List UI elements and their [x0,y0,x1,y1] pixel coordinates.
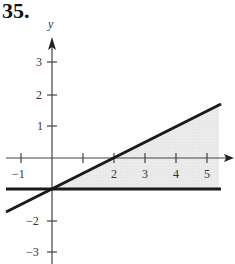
x-tick-label: 3 [142,167,148,181]
y-tick-label: −2 [26,214,39,228]
x-tick-label: −1 [12,167,25,181]
y-tick-label: 3 [36,55,42,69]
y-tick-label: 1 [37,119,43,133]
y-axis-label: y [47,17,54,31]
x-tick-label: 2 [111,167,117,181]
y-tick-label: −3 [26,245,39,259]
x-tick-label: 5 [204,167,210,181]
y-tick-label: 2 [36,88,42,102]
chart: y −1 2 3 4 5 3 2 1 −2 −3 [0,0,235,264]
x-tick-label: 4 [173,167,179,181]
